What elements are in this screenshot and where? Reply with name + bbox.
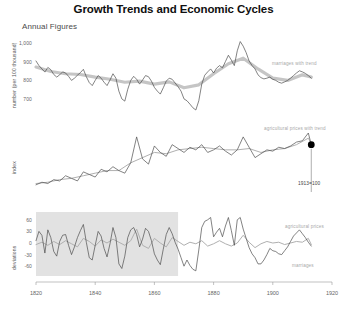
series-agricultural-prices-trend (36, 138, 311, 183)
x-tick-label: 1860 (142, 290, 166, 296)
series-marriages-trend (36, 58, 311, 88)
y-tick-label: -30 (14, 252, 32, 258)
x-tick-label: 1880 (202, 290, 226, 296)
y-tick-label: 0 (14, 240, 32, 246)
x-tick-label: 1840 (83, 290, 107, 296)
marker-dot (308, 141, 315, 148)
y-tick-label: 1,000 (14, 40, 32, 46)
panel-prices-marker-label: 1913=100 (298, 181, 320, 186)
panel-deviations-annotation-prices: agricultural prices (285, 224, 324, 229)
panel-marriages: number (per 100 thousand) marriages with… (0, 30, 347, 116)
y-tick-label: 800 (14, 77, 32, 83)
panel-deviations-annotation-marriages: marriages (292, 263, 314, 268)
panel-marriages-plot (0, 30, 347, 116)
y-tick-label: 60 (14, 217, 32, 223)
chart-root: Growth Trends and Economic Cycles Annual… (0, 0, 347, 311)
y-tick-label: 700 (14, 96, 32, 102)
x-tick-label: 1920 (320, 290, 344, 296)
panel-marriages-annotation: marriages with trend (272, 61, 317, 66)
y-tick-label: 900 (14, 59, 32, 65)
y-tick-label: -60 (14, 263, 32, 269)
shaded-region (36, 212, 178, 276)
x-tick-label: 1900 (261, 290, 285, 296)
panel-deviations: deviations agricultural prices marriages… (0, 208, 347, 290)
panel-prices: index agricultural prices with trend 191… (0, 118, 347, 196)
x-tick-label: 1820 (24, 290, 48, 296)
chart-title: Growth Trends and Economic Cycles (0, 3, 347, 15)
y-tick-label: 30 (14, 228, 32, 234)
panel-prices-annotation: agricultural prices with trend (264, 126, 326, 131)
panel-deviations-plot (0, 208, 347, 290)
panel-prices-ylabel: index (11, 161, 17, 174)
